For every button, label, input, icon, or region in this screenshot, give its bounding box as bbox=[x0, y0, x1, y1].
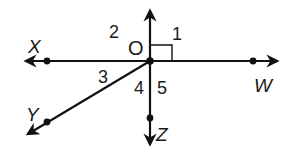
point-o bbox=[146, 57, 154, 65]
point-x bbox=[44, 58, 51, 65]
angle-label-1: 1 bbox=[172, 24, 182, 44]
label-x: X bbox=[27, 36, 42, 57]
angle-label-2: 2 bbox=[109, 22, 119, 42]
angle-label-3: 3 bbox=[98, 67, 108, 87]
label-o: O bbox=[128, 37, 144, 59]
right-angle-marker bbox=[150, 45, 172, 61]
angle-diagram: X W Y Z O 1 2 3 4 5 bbox=[0, 0, 286, 154]
point-w bbox=[250, 58, 257, 65]
angle-label-5: 5 bbox=[157, 78, 167, 98]
angle-label-4: 4 bbox=[134, 78, 144, 98]
label-y: Y bbox=[26, 104, 40, 125]
label-z: Z bbox=[155, 124, 169, 145]
label-w: W bbox=[254, 75, 274, 96]
point-y bbox=[44, 119, 51, 126]
point-z bbox=[147, 115, 154, 122]
